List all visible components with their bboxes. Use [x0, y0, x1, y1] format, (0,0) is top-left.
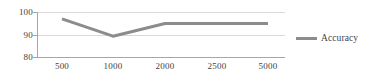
x-tick-label-5000: 5000	[259, 62, 278, 71]
x-tick-label-2500: 2500	[208, 62, 227, 71]
x-tick-label-500: 500	[55, 62, 69, 71]
x-tick-label-1000: 1000	[104, 62, 123, 71]
accuracy-series-line	[37, 12, 285, 58]
y-tick-label-100: 100	[7, 8, 33, 17]
legend-swatch-accuracy	[296, 37, 317, 40]
y-tick-label-80-wrap: 80	[0, 53, 33, 62]
y-tick-label-80: 80	[7, 53, 33, 62]
y-tick-label-90-wrap: 90	[0, 31, 33, 40]
y-tick-label-90: 90	[7, 31, 33, 40]
accuracy-line-chart: 100 90 80 500 1000 2000 2500 5000 Accura…	[0, 0, 376, 83]
chart-legend: Accuracy	[296, 33, 358, 43]
legend-label-accuracy: Accuracy	[321, 33, 358, 43]
x-tick-label-2000: 2000	[156, 62, 175, 71]
y-tick-label-100-wrap: 100	[0, 8, 33, 17]
